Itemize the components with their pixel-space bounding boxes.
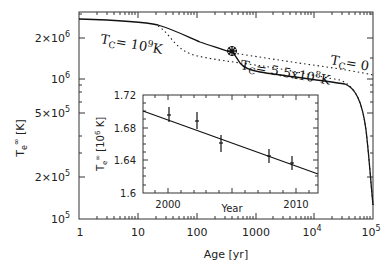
chart-canvas: 1 10 100 1000 104 105 105 2×105 5×105 10… xyxy=(0,0,392,274)
svg-text:105: 105 xyxy=(361,224,380,239)
annotation-tc-5.5e8: TC= 5.5x108K xyxy=(239,56,332,90)
main-x-axis-title: Age [yr] xyxy=(204,248,248,261)
main-x-tick-labels: 1 10 100 1000 104 105 xyxy=(77,224,381,239)
svg-text:5×105: 5×105 xyxy=(35,105,70,120)
svg-text:2×105: 2×105 xyxy=(35,169,70,184)
inset-y-label-1.72: 1.72 xyxy=(114,90,136,101)
inset-y-label-1.64: 1.64 xyxy=(114,155,136,166)
svg-text:2×106: 2×106 xyxy=(35,30,70,45)
annotation-tc-1e9: TC= 109K xyxy=(99,30,164,59)
annotation-tc-0: TC= 0 xyxy=(329,52,370,75)
svg-text:10: 10 xyxy=(131,226,145,239)
svg-text:1: 1 xyxy=(77,226,84,239)
inset-x-axis-title: Year xyxy=(220,203,243,214)
svg-text:105: 105 xyxy=(51,211,70,226)
svg-text:100: 100 xyxy=(187,226,208,239)
main-y-axis-title: Te∞ [K] xyxy=(12,119,29,158)
star-marker-icon xyxy=(227,46,237,56)
svg-text:106: 106 xyxy=(51,71,70,86)
inset-x-label-2010: 2010 xyxy=(283,199,308,210)
inset-y-label-1.68: 1.68 xyxy=(114,123,136,134)
main-y-tick-labels: 105 2×105 5×105 106 2×106 xyxy=(35,30,70,226)
inset-x-label-2000: 2000 xyxy=(155,199,180,210)
inset-y-label-1.6: 1.6 xyxy=(120,188,136,199)
svg-text:1000: 1000 xyxy=(242,226,270,239)
svg-text:104: 104 xyxy=(302,224,321,239)
inset-chart: 1.72 1.68 1.64 1.6 2000 2010 Year Te∞ [1… xyxy=(94,90,318,214)
inset-y-axis-title: Te∞ [106 K] xyxy=(94,117,109,172)
